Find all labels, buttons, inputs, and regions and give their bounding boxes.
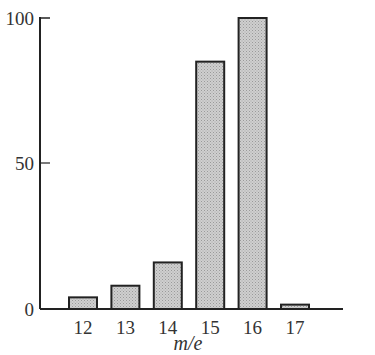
bar-16 (239, 18, 267, 309)
bar-14 (154, 262, 182, 309)
bar-13 (111, 286, 139, 309)
y-tick-labels: 100 50 0 (6, 8, 35, 320)
bar-12 (69, 297, 97, 309)
axes-group (40, 17, 343, 309)
bars-group (69, 18, 309, 309)
bar-15 (196, 62, 224, 309)
x-tick-label: 17 (286, 317, 305, 338)
x-tick-label: 13 (116, 317, 135, 338)
x-tick-label: 12 (74, 317, 93, 338)
x-axis-title: m/e (174, 332, 203, 354)
bar-chart: 100 50 0 121314151617 m/e (0, 0, 375, 355)
y-tick-label: 100 (6, 8, 35, 29)
y-tick-label: 0 (25, 299, 35, 320)
y-tick-label: 50 (15, 153, 34, 174)
x-tick-label: 15 (201, 317, 220, 338)
x-tick-label: 16 (243, 317, 262, 338)
